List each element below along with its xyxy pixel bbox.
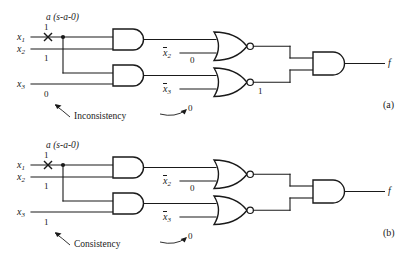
panel-label-b: (b) xyxy=(383,228,395,238)
value-x2-bar: 0 xyxy=(190,56,195,65)
gate-nor-lower xyxy=(214,68,253,97)
input-label-x3: x3 xyxy=(17,207,25,219)
fault-label: a (s-a-0) xyxy=(46,13,79,23)
gate-and-upper xyxy=(113,157,144,178)
arrowhead-right xyxy=(181,237,187,242)
annotation-text: Inconsistency xyxy=(74,112,126,122)
value-x1: 1 xyxy=(44,23,49,32)
gate-nor-upper xyxy=(214,32,253,61)
arrowhead-left xyxy=(55,232,62,237)
value-x3: 0 xyxy=(44,90,49,99)
value-x2: 1 xyxy=(44,182,49,191)
gate-and-lower xyxy=(113,65,144,86)
input-label-x3-bar: x3 xyxy=(163,83,171,96)
value-x1: 1 xyxy=(44,151,49,160)
annotation-text: Consistency xyxy=(74,240,120,250)
gate-and-upper xyxy=(113,29,144,50)
fault-label: a (s-a-0) xyxy=(46,141,79,151)
gate-and-lower xyxy=(113,193,144,214)
panel-a: x1 x2 x3 a (s-a-0) 1 1 0 x2 0 x3 1 Incon… xyxy=(0,0,413,128)
fanout-junction-dot xyxy=(61,35,65,39)
gate-and-output xyxy=(313,180,344,203)
fanout-junction-dot xyxy=(61,163,65,167)
value-x2-bar: 0 xyxy=(190,184,195,193)
input-label-x2-bar: x2 xyxy=(163,175,171,188)
input-label-x3-bar: x3 xyxy=(163,211,171,224)
gate-nor-lower xyxy=(214,196,253,225)
input-label-x2: x2 xyxy=(17,172,25,184)
value-x3: 1 xyxy=(44,218,49,227)
output-label-f: f xyxy=(388,58,391,68)
gate-and-output xyxy=(313,52,344,75)
gate-nor-upper xyxy=(214,160,253,189)
panel-label-a: (a) xyxy=(383,100,394,110)
value-nor-lower-output: 1 xyxy=(258,87,263,96)
input-label-x2-bar: x2 xyxy=(163,47,171,60)
input-label-x3: x3 xyxy=(17,79,25,91)
annotation-right-value: 0 xyxy=(188,104,193,113)
arrowhead-left xyxy=(55,104,62,109)
input-label-x2: x2 xyxy=(17,44,25,56)
figure-logic-circuit-fault-test: x1 x2 x3 a (s-a-0) 1 1 0 x2 0 x3 1 Incon… xyxy=(0,0,413,257)
annotation-right-value: 0 xyxy=(188,232,193,241)
panel-b: x1 x2 x3 a (s-a-0) 1 1 1 x2 0 x3 Consist… xyxy=(0,128,413,256)
output-label-f: f xyxy=(388,186,391,196)
value-x2: 1 xyxy=(44,54,49,63)
arrowhead-right xyxy=(181,109,187,114)
